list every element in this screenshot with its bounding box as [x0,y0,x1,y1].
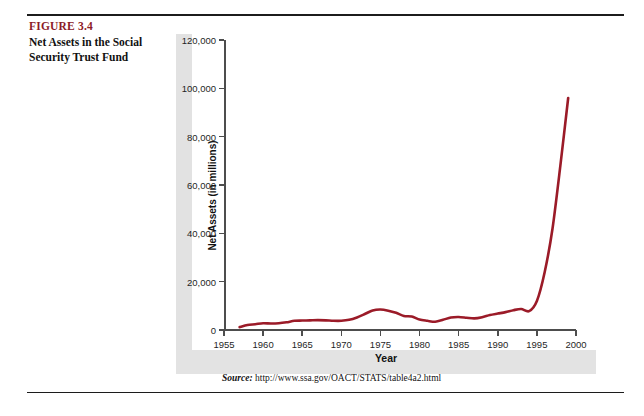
x-axis-tick [419,330,421,336]
x-axis-tick [497,330,499,336]
x-axis-tick-label: 2000 [565,339,586,350]
x-axis-tick [575,330,577,336]
x-axis-tick [380,330,382,336]
y-axis-tick-label: 20,000 [187,276,216,287]
plot-region: Net Assets (in millions) 020,00040,00060… [224,40,576,330]
x-axis-tick-label: 1960 [253,339,274,350]
y-axis-tick-label: 0 [211,325,216,336]
x-axis-tick-label: 1970 [331,339,352,350]
x-axis-tick-label: 1980 [409,339,430,350]
x-axis-tick-label: 1965 [292,339,313,350]
series-line-chart [224,40,576,330]
panel-left-band [176,34,192,350]
bottom-rule [27,392,624,393]
y-axis-tick-label: 40,000 [187,228,216,239]
figure-number: FIGURE 3.4 [29,19,179,33]
x-axis-tick [341,330,343,336]
y-axis-tick-label: 60,000 [187,180,216,191]
x-axis-tick [262,330,264,336]
x-axis-tick-label: 1990 [487,339,508,350]
source-line: Source: http://www.ssa.gov/OACT/STATS/ta… [222,373,441,383]
x-axis-tick-label: 1975 [370,339,391,350]
x-axis-tick [458,330,460,336]
x-axis-tick-label: 1955 [213,339,234,350]
source-url: http://www.ssa.gov/OACT/STATS/table4a2.h… [255,373,441,383]
x-axis-tick [301,330,303,336]
figure-container: FIGURE 3.4 Net Assets in the Social Secu… [0,0,644,416]
figure-title: Net Assets in the Social Security Trust … [29,35,179,64]
x-axis-tick-label: 1995 [526,339,547,350]
source-label: Source: [222,373,253,383]
y-axis-tick-label: 120,000 [182,35,216,46]
x-axis-title: Year [176,352,596,364]
y-axis-tick-label: 80,000 [187,131,216,142]
top-rule [27,14,624,16]
x-axis-tick [536,330,538,336]
figure-caption: FIGURE 3.4 Net Assets in the Social Secu… [29,19,179,64]
x-axis-tick-label: 1985 [448,339,469,350]
x-axis-tick [223,330,225,336]
series-path-net-assets [240,98,569,327]
y-axis-tick-label: 100,000 [182,83,216,94]
chart-area: Year Net Assets (in millions) 020,00040,… [176,30,596,370]
